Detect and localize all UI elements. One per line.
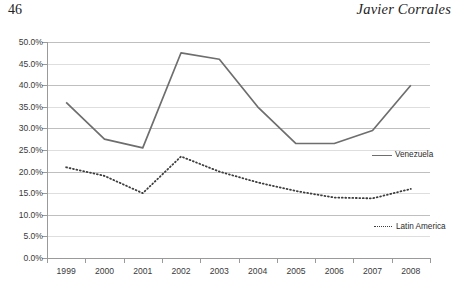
y-axis-tick-label: 10.0% xyxy=(19,210,43,220)
y-axis-tick-label: 5.0% xyxy=(23,231,43,241)
y-axis-tick-label: 35.0% xyxy=(19,102,43,112)
series-line-latin-america xyxy=(66,156,411,198)
series-label-venezuela: Venezuela xyxy=(395,150,433,159)
x-axis-tick-label: 2005 xyxy=(286,266,305,276)
x-axis-tick-label: 2008 xyxy=(401,266,420,276)
x-axis-tick-label: 2002 xyxy=(171,266,190,276)
x-axis-tick-label: 2007 xyxy=(363,266,382,276)
x-axis-tick-label: 2004 xyxy=(248,266,267,276)
series-marker-venezuela xyxy=(372,155,392,156)
y-axis-tick-label: 30.0% xyxy=(19,123,43,133)
series-line-venezuela xyxy=(66,53,411,148)
series-marker-latin-america xyxy=(374,226,392,227)
running-head-author: Javier Corrales xyxy=(357,1,451,18)
chart-figure: 0.0%5.0%10.0%15.0%20.0%25.0%30.0%35.0%40… xyxy=(0,24,459,281)
page-canvas: 46 Javier Corrales 0.0%5.0%10.0%15.0%20.… xyxy=(0,0,459,281)
x-axis-tick-label: 2001 xyxy=(133,266,152,276)
y-axis-tick-label: 50.0% xyxy=(19,37,43,47)
y-axis-tick-label: 25.0% xyxy=(19,145,43,155)
y-axis-tick-label: 45.0% xyxy=(19,59,43,69)
series-label-latin-america: Latin America xyxy=(396,222,446,231)
x-axis-tick-label: 2000 xyxy=(95,266,114,276)
x-axis-tick-label: 2003 xyxy=(210,266,229,276)
x-axis-tick-label: 1999 xyxy=(57,266,76,276)
running-head: 46 Javier Corrales xyxy=(0,0,459,24)
series-layer xyxy=(47,42,430,259)
x-axis-tick xyxy=(430,258,431,263)
y-axis-tick-label: 20.0% xyxy=(19,167,43,177)
y-axis-tick-label: 40.0% xyxy=(19,80,43,90)
y-axis-tick-label: 0.0% xyxy=(23,253,43,263)
y-axis-tick-label: 15.0% xyxy=(19,188,43,198)
x-axis-tick-label: 2006 xyxy=(325,266,344,276)
page-number: 46 xyxy=(8,2,22,18)
